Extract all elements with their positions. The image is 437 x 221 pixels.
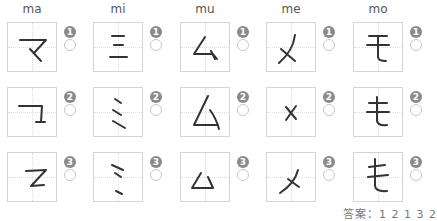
- option-number-badge: 2: [150, 91, 162, 103]
- ma-stroke-option-3-icon: [8, 153, 56, 201]
- handwriting-box-me-3: [266, 152, 316, 202]
- handwriting-box-ma-2: [7, 87, 57, 137]
- radio-me-3[interactable]: [323, 169, 335, 181]
- option-number-badge: 3: [410, 156, 422, 168]
- option-number-badge: 2: [237, 91, 249, 103]
- handwriting-box-mi-2: [93, 87, 143, 137]
- option-number-badge: 1: [323, 26, 335, 38]
- ma-stroke-option-1-icon: [8, 23, 56, 71]
- mo-stroke-option-1-icon: [354, 23, 402, 71]
- radio-mo-3[interactable]: [410, 169, 422, 181]
- option-number-badge: 3: [237, 156, 249, 168]
- me-stroke-option-2-icon: [267, 88, 315, 136]
- column-label-mi: mi: [93, 2, 143, 16]
- handwriting-box-me-2: [266, 87, 316, 137]
- column-label-me: me: [266, 2, 316, 16]
- option-number-badge: 1: [150, 26, 162, 38]
- answer-key: 答案：1 2 1 3 2: [343, 205, 437, 221]
- answer-values: 1 2 1 3 2: [379, 208, 437, 221]
- option-number-badge: 3: [150, 156, 162, 168]
- radio-mi-3[interactable]: [150, 169, 162, 181]
- handwriting-box-ma-1: [7, 22, 57, 72]
- handwriting-box-mu-3: [180, 152, 230, 202]
- column-label-ma: ma: [7, 2, 57, 16]
- option-number-badge: 1: [64, 26, 76, 38]
- mu-stroke-option-2-icon: [181, 88, 229, 136]
- mi-stroke-option-2-icon: [94, 88, 142, 136]
- option-number-badge: 3: [323, 156, 335, 168]
- handwriting-box-mi-1: [93, 22, 143, 72]
- radio-mu-1[interactable]: [237, 39, 249, 51]
- radio-mi-2[interactable]: [150, 104, 162, 116]
- option-number-badge: 2: [323, 91, 335, 103]
- radio-ma-2[interactable]: [64, 104, 76, 116]
- handwriting-box-mi-3: [93, 152, 143, 202]
- radio-ma-1[interactable]: [64, 39, 76, 51]
- option-number-badge: 1: [237, 26, 249, 38]
- mi-stroke-option-3-icon: [94, 153, 142, 201]
- handwriting-box-mo-1: [353, 22, 403, 72]
- handwriting-box-me-1: [266, 22, 316, 72]
- radio-mu-2[interactable]: [237, 104, 249, 116]
- mo-stroke-option-3-icon: [354, 153, 402, 201]
- option-number-badge: 1: [410, 26, 422, 38]
- ma-stroke-option-2-icon: [8, 88, 56, 136]
- mo-stroke-option-2-icon: [354, 88, 402, 136]
- radio-mo-1[interactable]: [410, 39, 422, 51]
- radio-mu-3[interactable]: [237, 169, 249, 181]
- mu-stroke-option-1-icon: [181, 23, 229, 71]
- handwriting-box-ma-3: [7, 152, 57, 202]
- radio-me-1[interactable]: [323, 39, 335, 51]
- handwriting-box-mu-2: [180, 87, 230, 137]
- column-label-mu: mu: [180, 2, 230, 16]
- handwriting-box-mo-3: [353, 152, 403, 202]
- option-number-badge: 2: [410, 91, 422, 103]
- me-stroke-option-3-icon: [267, 153, 315, 201]
- handwriting-box-mo-2: [353, 87, 403, 137]
- radio-ma-3[interactable]: [64, 169, 76, 181]
- mi-stroke-option-1-icon: [94, 23, 142, 71]
- mu-stroke-option-3-icon: [181, 153, 229, 201]
- answer-label: 答案：: [343, 208, 379, 221]
- radio-mo-2[interactable]: [410, 104, 422, 116]
- handwriting-box-mu-1: [180, 22, 230, 72]
- me-stroke-option-1-icon: [267, 23, 315, 71]
- radio-me-2[interactable]: [323, 104, 335, 116]
- option-number-badge: 2: [64, 91, 76, 103]
- radio-mi-1[interactable]: [150, 39, 162, 51]
- option-number-badge: 3: [64, 156, 76, 168]
- column-label-mo: mo: [353, 2, 403, 16]
